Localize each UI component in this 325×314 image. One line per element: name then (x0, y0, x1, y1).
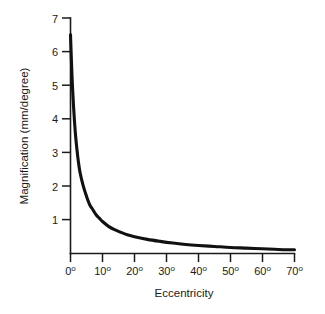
degree-symbol-icon: o (138, 264, 143, 273)
degree-symbol-icon: o (106, 264, 111, 273)
x-axis-title: Eccentricity (155, 287, 214, 299)
degree-symbol-icon: o (234, 264, 239, 273)
degree-symbol-icon: o (202, 264, 207, 273)
y-tick-label-1: 1 (52, 214, 58, 226)
chart-figure: 7 6 5 4 3 2 1 0o 10o 20o 30o 40o 50o (0, 0, 325, 314)
magnification-eccentricity-chart: 7 6 5 4 3 2 1 0o 10o 20o 30o 40o 50o (0, 0, 325, 314)
degree-symbol-icon: o (266, 264, 271, 273)
degree-symbol-icon: o (298, 264, 303, 273)
degree-symbol-icon: o (170, 264, 175, 273)
y-tick-label-6: 6 (52, 46, 58, 58)
y-tick-label-5: 5 (52, 80, 58, 92)
y-tick-label-4: 4 (52, 113, 58, 125)
y-tick-label-2: 2 (52, 181, 58, 193)
y-tick-label-7: 7 (52, 13, 58, 25)
degree-symbol-icon: o (71, 264, 76, 273)
y-tick-label-3: 3 (52, 147, 58, 159)
y-axis-title: Magnification (mm/degree) (18, 67, 30, 204)
